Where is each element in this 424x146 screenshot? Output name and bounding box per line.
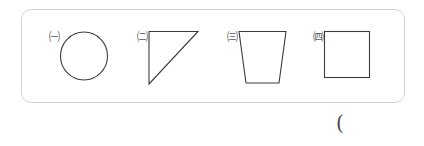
shape-item-square[interactable]: ㈣ (312, 10, 404, 104)
shape-item-circle[interactable]: ㈠ (48, 10, 140, 104)
worksheet-page: ㈠ ㈡ ㈢ (0, 0, 424, 146)
trapezoid-shape (237, 30, 289, 86)
circle-shape (59, 30, 109, 82)
shape-container: ㈠ ㈡ ㈢ (21, 9, 405, 103)
answer-blank-parenthesis: ( (336, 113, 344, 133)
shape-item-right-triangle[interactable]: ㈡ (136, 10, 228, 104)
shape-item-trapezoid[interactable]: ㈢ (226, 10, 318, 104)
right-triangle-shape (147, 30, 201, 86)
square-shape (323, 30, 373, 82)
